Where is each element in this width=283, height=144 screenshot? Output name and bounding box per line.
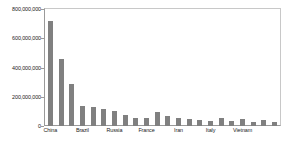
- bar: [261, 120, 266, 126]
- bar: [176, 118, 181, 126]
- y-axis-tick-mark: [41, 97, 44, 98]
- bar: [112, 111, 117, 126]
- bar: [197, 120, 202, 126]
- y-axis-tick-mark: [41, 38, 44, 39]
- bar: [219, 118, 224, 126]
- y-axis-tick-label: 600,000,000: [12, 35, 41, 41]
- x-axis-tick-label: Italy: [206, 127, 215, 134]
- bar: [91, 107, 96, 126]
- bar: [101, 109, 106, 126]
- y-axis-tick-label: 800,000,000: [12, 6, 41, 12]
- x-axis-tick-label: Russia: [106, 127, 122, 134]
- x-axis-tick-label: Iran: [174, 127, 183, 134]
- y-axis-tick-mark: [41, 68, 44, 69]
- bar: [240, 119, 245, 126]
- x-axis-tick-label: Brazil: [76, 127, 89, 134]
- y-axis-tick-mark: [41, 9, 44, 10]
- bar: [69, 84, 74, 126]
- x-axis: ChinaBrazilRussiaFranceIranItalyVietnam: [45, 127, 280, 137]
- bar: [48, 21, 53, 126]
- bar: [251, 122, 256, 126]
- x-axis-tick-label: France: [138, 127, 154, 134]
- bar: [123, 115, 128, 126]
- bar: [133, 118, 138, 126]
- bars-container: [45, 9, 280, 126]
- bar: [208, 121, 213, 126]
- y-axis-tick-label: 400,000,000: [12, 65, 41, 71]
- y-axis-tick-label: 200,000,000: [12, 94, 41, 100]
- y-axis: 0200,000,000400,000,000600,000,000800,00…: [0, 0, 41, 134]
- bar: [165, 116, 170, 126]
- bar: [229, 121, 234, 126]
- bar: [59, 59, 64, 126]
- x-axis-tick-label: China: [44, 127, 58, 134]
- bar: [80, 106, 85, 126]
- bar-chart: 0200,000,000400,000,000600,000,000800,00…: [0, 0, 283, 144]
- bar: [272, 122, 277, 126]
- bar: [187, 119, 192, 126]
- bar: [144, 118, 149, 126]
- bar: [155, 112, 160, 126]
- x-axis-tick-label: Vietnam: [233, 127, 252, 134]
